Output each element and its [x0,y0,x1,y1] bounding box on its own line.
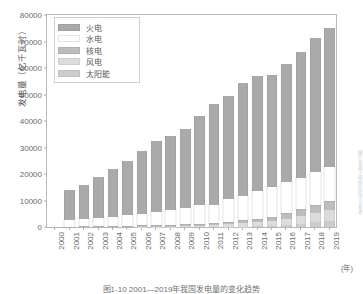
x-tick-label: 2014 [260,232,269,250]
x-tick-label: 2009 [187,232,196,250]
y-tick-mark [44,68,47,69]
bar-segment-风电 [281,219,292,225]
bar-segment-核电 [108,226,119,227]
legend-swatch-2 [58,47,80,54]
x-tick-label: 2013 [245,232,254,250]
bar-2005 [122,161,131,227]
legend-swatch-0 [58,24,80,31]
x-tick-mark [126,227,127,230]
bar-2007 [151,141,160,227]
legend-swatch-4 [58,70,80,77]
bar-segment-水电 [324,167,335,201]
y-tick-mark [44,15,47,16]
legend-swatch-3 [58,58,80,65]
y-tick-mark [44,94,47,95]
x-tick-mark [314,227,315,230]
bar-segment-火电 [281,64,292,182]
y-tick-label: 20000 [20,170,47,179]
x-tick-mark [69,227,70,230]
x-tick-label: 2002 [86,232,95,250]
x-tick-label: 2015 [274,232,283,250]
bar-2001 [64,190,73,227]
legend-item: 太阳能 [58,68,135,78]
bar-segment-火电 [194,116,205,204]
bar-segment-太阳能 [252,226,263,227]
legend-item: 风电 [58,57,135,67]
bar-2008 [165,136,174,227]
bar-segment-核电 [252,219,263,223]
x-tick-mark [285,227,286,230]
chart-legend: 火电水电核电风电太阳能 [54,17,140,83]
bar-segment-火电 [122,161,133,215]
bar-2019 [324,28,333,227]
y-tick-label: 10000 [20,196,47,205]
x-tick-label: 2000 [57,232,66,250]
x-tick-mark [155,227,156,230]
y-tick-label: 60000 [20,64,47,73]
x-tick-label: 2004 [115,232,124,250]
y-tick-mark [44,147,47,148]
x-tick-mark [98,227,99,230]
bar-segment-火电 [151,141,162,213]
bar-segment-核电 [209,223,220,225]
legend-item: 核电 [58,45,135,55]
bar-segment-火电 [93,177,104,218]
bar-segment-太阳能 [324,221,335,227]
bar-2017 [296,52,305,227]
bar-segment-火电 [180,129,191,209]
bar-segment-火电 [267,75,278,187]
legend-swatch-1 [58,35,80,42]
legend-item: 火电 [58,22,135,32]
x-tick-label: 2003 [101,232,110,250]
y-tick-mark [44,227,47,228]
x-tick-label: 2011 [216,232,225,249]
bar-segment-太阳能 [310,222,321,227]
bar-segment-火电 [137,151,148,214]
bar-segment-水电 [151,212,162,225]
bar-segment-火电 [79,185,90,219]
bar-2011 [209,104,218,227]
bar-segment-火电 [108,169,119,217]
bar-segment-水电 [122,215,133,225]
bar-segment-火电 [223,96,234,199]
x-tick-mark [242,227,243,230]
bar-2018 [310,38,319,227]
bar-segment-水电 [310,172,321,205]
bar-segment-火电 [324,28,335,166]
x-tick-mark [213,227,214,230]
x-tick-mark [257,227,258,230]
y-tick-mark [44,174,47,175]
bar-segment-水电 [209,205,220,222]
bar-2016 [281,64,290,227]
y-tick-label: 80000 [20,11,47,20]
x-tick-mark [300,227,301,230]
x-tick-mark [54,227,55,230]
bar-segment-水电 [93,218,104,225]
bar-2010 [194,116,203,227]
x-tick-label: 2005 [129,232,138,250]
bar-segment-太阳能 [281,225,292,227]
figure-caption: 图1-10 2001—2019年我国发电量的变化趋势 [0,283,363,294]
bar-segment-水电 [281,182,292,213]
x-tick-label: 2007 [158,232,167,250]
x-tick-label: 2001 [72,232,81,250]
bar-segment-核电 [79,226,90,227]
bar-2006 [137,151,146,227]
x-tick-mark [199,227,200,230]
bar-segment-核电 [93,226,104,227]
x-tick-mark [271,227,272,230]
bar-segment-核电 [194,224,205,226]
bar-segment-火电 [165,136,176,210]
y-tick-label: 70000 [20,37,47,46]
y-tick-label: 30000 [20,143,47,152]
bar-segment-风电 [223,224,234,227]
bar-segment-水电 [180,208,191,224]
legend-label: 水电 [86,33,102,44]
bar-2009 [180,129,189,228]
bar-segment-火电 [238,83,249,195]
bar-segment-太阳能 [296,224,307,227]
bar-segment-风电 [310,213,321,223]
x-tick-label: 2008 [173,232,182,250]
bar-segment-核电 [324,201,335,210]
bar-segment-风电 [209,225,220,227]
